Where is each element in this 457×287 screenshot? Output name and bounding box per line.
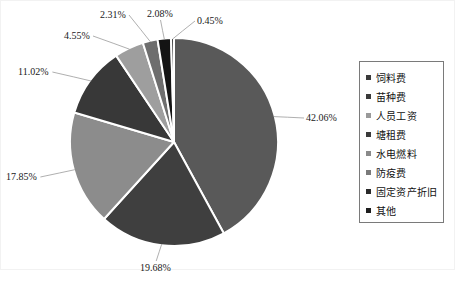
legend-item-label: 固定资产折旧 <box>376 184 437 199</box>
legend-item-label: 塘租费 <box>376 127 407 142</box>
pie-data-label: 19.68% <box>140 263 171 273</box>
data-label-leader-line <box>173 21 196 39</box>
pie-data-label: 42.06% <box>306 113 337 123</box>
data-label-leader-line <box>40 170 74 177</box>
pie-data-label: 4.55% <box>64 31 90 41</box>
pie-chart-figure: 42.06%19.68%17.85%11.02%4.55%2.31%2.08%0… <box>0 0 457 287</box>
legend-item[interactable]: 防疫费 <box>366 163 443 182</box>
legend-item[interactable]: 苗种费 <box>366 87 443 106</box>
legend-swatch-icon <box>366 132 371 137</box>
legend-swatch-icon <box>366 94 371 99</box>
legend-item-label: 苗种费 <box>376 89 407 104</box>
legend-swatch-icon <box>366 170 371 175</box>
pie-slice-group <box>70 38 278 246</box>
legend-swatch-icon <box>366 151 371 156</box>
chart-legend[interactable]: 饲料费苗种费人员工资塘租费水电燃料防疫费固定资产折旧其他 <box>359 61 444 223</box>
legend-item-label: 水电燃料 <box>376 146 417 161</box>
legend-item[interactable]: 固定资产折旧 <box>366 182 443 201</box>
data-label-leader-line <box>161 20 165 40</box>
legend-swatch-icon <box>366 113 371 118</box>
pie-data-label: 11.02% <box>18 67 48 77</box>
legend-item-label: 其他 <box>376 203 396 218</box>
legend-item[interactable]: 塘租费 <box>366 125 443 144</box>
legend-item-label: 防疫费 <box>376 165 407 180</box>
legend-item[interactable]: 其他 <box>366 201 443 220</box>
legend-swatch-icon <box>366 189 371 194</box>
legend-swatch-icon <box>366 208 371 213</box>
pie-data-label: 2.08% <box>147 9 173 19</box>
data-label-leader-line <box>274 117 304 118</box>
legend-item[interactable]: 水电燃料 <box>366 144 443 163</box>
legend-item-label: 人员工资 <box>376 108 417 123</box>
data-label-leader-line <box>93 36 130 49</box>
data-label-leader-line <box>156 244 162 261</box>
pie-data-label: 2.31% <box>100 10 126 20</box>
legend-item-label: 饲料费 <box>376 70 407 85</box>
legend-item[interactable]: 饲料费 <box>366 68 443 87</box>
pie-data-label: 0.45% <box>197 16 223 26</box>
legend-swatch-icon <box>366 75 371 80</box>
data-label-leader-line <box>52 72 91 81</box>
pie-data-label: 17.85% <box>6 172 37 182</box>
legend-item[interactable]: 人员工资 <box>366 106 443 125</box>
data-label-leader-line <box>129 15 150 42</box>
